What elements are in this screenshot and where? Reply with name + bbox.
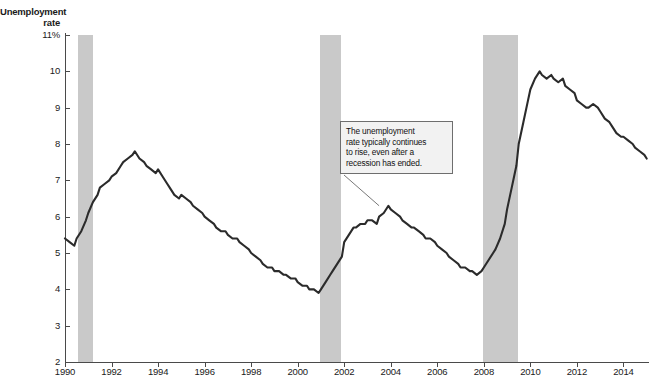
unemployment-rate-line xyxy=(65,71,647,293)
callout-line-2: rate typically continues xyxy=(346,137,447,148)
callout-line-3: to rise, even after a xyxy=(346,147,447,158)
callout-line-1: The unemployment xyxy=(346,126,447,137)
unemployment-rate-chart: Unemployment rate 11%1098765432 19901992… xyxy=(0,0,649,389)
annotation-callout: The unemployment rate typically continue… xyxy=(340,121,453,174)
callout-leader-line xyxy=(344,175,379,206)
callout-line-4: recession has ended. xyxy=(346,158,447,169)
series-layer xyxy=(0,0,649,389)
